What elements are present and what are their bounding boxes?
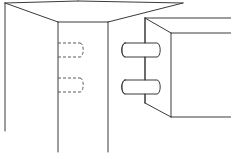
lower-dowel-pin [122, 80, 160, 94]
dowel-joint-drawing-canvas [0, 0, 231, 153]
lower-dowel-body [122, 80, 160, 94]
right-board-side-face [171, 33, 231, 117]
upper-dowel-body [122, 43, 160, 57]
upper-dowel-pin [122, 43, 160, 57]
right-board-group [145, 18, 231, 117]
technical-drawing-figure [0, 0, 231, 153]
right-board-front-face [145, 18, 171, 117]
